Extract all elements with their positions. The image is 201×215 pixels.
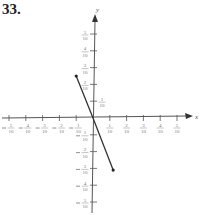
x-tick-label: 110 [69, 123, 82, 135]
svg-text:5: 5 [176, 123, 179, 128]
svg-text:10: 10 [83, 154, 89, 159]
svg-text:10: 10 [25, 129, 31, 134]
svg-text:10: 10 [83, 86, 89, 91]
svg-text:10: 10 [124, 129, 130, 134]
x-tick-label: 510 [2, 123, 15, 135]
x-axis-arrow-icon [185, 113, 193, 119]
svg-text:2: 2 [84, 80, 87, 85]
svg-text:10: 10 [83, 53, 89, 58]
svg-text:1: 1 [84, 130, 87, 135]
svg-text:4: 4 [159, 123, 162, 128]
svg-text:5: 5 [84, 30, 87, 35]
y-tick-label: 310 [76, 164, 89, 176]
svg-text:2: 2 [125, 123, 128, 128]
y-tick-label: 210 [82, 80, 89, 92]
y-tick-label: 210 [76, 147, 89, 159]
x-tick-label: 410 [157, 123, 164, 135]
svg-text:4: 4 [84, 181, 87, 186]
svg-text:5: 5 [84, 198, 87, 203]
x-axis-label: x [194, 113, 199, 121]
y-axis-arrow-icon [92, 14, 98, 22]
svg-text:10: 10 [9, 129, 15, 134]
svg-text:10: 10 [158, 129, 164, 134]
svg-text:4: 4 [27, 123, 30, 128]
svg-text:10: 10 [83, 187, 89, 192]
svg-text:10: 10 [42, 129, 48, 134]
svg-text:4: 4 [84, 46, 87, 51]
svg-text:10: 10 [83, 204, 89, 209]
x-tick-label: 310 [36, 123, 49, 135]
x-tick-label: 210 [123, 123, 130, 135]
svg-text:2: 2 [60, 123, 63, 128]
y-tick-label: 310 [82, 63, 89, 75]
x-tick-label: 210 [52, 123, 65, 135]
svg-text:3: 3 [43, 123, 46, 128]
y-tick-label: 510 [82, 30, 89, 42]
x-tick-label: 510 [174, 123, 181, 135]
svg-text:10: 10 [141, 129, 147, 134]
svg-text:2: 2 [84, 147, 87, 152]
svg-text:10: 10 [100, 103, 106, 108]
svg-text:1: 1 [77, 123, 80, 128]
svg-text:10: 10 [175, 129, 181, 134]
svg-text:10: 10 [107, 129, 113, 134]
x-tick-label: 410 [19, 123, 32, 135]
y-tick-label: 110 [99, 97, 106, 109]
svg-text:3: 3 [84, 164, 87, 169]
svg-text:10: 10 [59, 129, 65, 134]
svg-text:3: 3 [84, 63, 87, 68]
y-axis-label: y [95, 6, 100, 14]
y-tick-label: 510 [76, 198, 89, 210]
x-tick-label: 310 [140, 123, 147, 135]
y-tick-label: 410 [82, 46, 89, 58]
x-tick-label: 110 [106, 123, 113, 135]
coordinate-plane: xy51041031021011011021031041051051041031… [0, 0, 201, 215]
svg-text:1: 1 [109, 123, 112, 128]
svg-text:10: 10 [83, 170, 89, 175]
svg-text:10: 10 [83, 70, 89, 75]
y-tick-label: 410 [76, 181, 89, 193]
svg-text:10: 10 [83, 137, 89, 142]
svg-text:10: 10 [83, 36, 89, 41]
svg-text:1: 1 [101, 97, 104, 102]
endpoint-dot [75, 74, 78, 77]
svg-text:5: 5 [10, 123, 13, 128]
endpoint-dot [112, 168, 115, 171]
svg-text:10: 10 [76, 129, 82, 134]
svg-text:3: 3 [142, 123, 145, 128]
